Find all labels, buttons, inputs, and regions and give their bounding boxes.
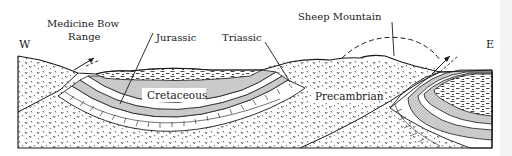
label-east: E bbox=[486, 38, 494, 51]
label-precambrian: Precambrian bbox=[315, 90, 384, 102]
label-medicine-bow-line1: Medicine Bow bbox=[47, 18, 119, 29]
eroded-fold-dashed-arc bbox=[342, 37, 440, 60]
label-jurassic: Jurassic bbox=[155, 32, 197, 43]
thrust-arrow-west-icon bbox=[74, 58, 100, 70]
geologic-cross-section: Cretaceous W E Medicine Bow Range Jurass… bbox=[0, 0, 512, 156]
label-west: W bbox=[19, 38, 31, 51]
label-medicine-bow-line2: Range bbox=[68, 31, 101, 42]
label-triassic: Triassic bbox=[222, 32, 262, 43]
label-cretaceous: Cretaceous bbox=[147, 89, 207, 101]
leader-sheep-mountain bbox=[392, 22, 394, 56]
label-sheep-mountain: Sheep Mountain bbox=[298, 11, 382, 22]
